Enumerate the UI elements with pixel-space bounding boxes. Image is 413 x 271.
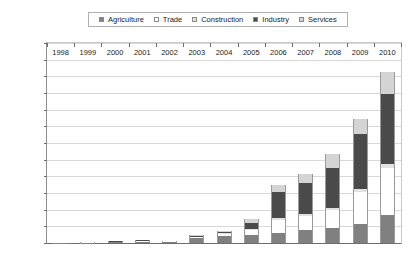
y-tick-mark [44, 60, 47, 61]
bar-column[interactable] [189, 235, 204, 243]
x-axis-tick-label: 2001 [129, 49, 156, 57]
bar-segment-agriculture [298, 230, 313, 243]
legend-item-construction[interactable]: Construction [192, 16, 243, 24]
y-gridline [47, 176, 401, 177]
x-tick-mark [319, 43, 320, 47]
bar-segment-trade [353, 192, 368, 224]
y-gridline [47, 60, 401, 61]
bar-segment-industry [271, 192, 286, 218]
bar-segment-agriculture [353, 224, 368, 243]
bar-segment-agriculture [325, 228, 340, 243]
y-tick-mark [44, 210, 47, 211]
x-tick-mark [265, 43, 266, 47]
x-axis-tick-label: 2010 [374, 49, 401, 57]
x-tick-mark [74, 43, 75, 47]
legend-swatch-icon [192, 17, 197, 22]
x-axis-tick-label: 1998 [47, 49, 74, 57]
bar-column[interactable] [217, 231, 232, 243]
y-tick-mark [44, 126, 47, 127]
bar-column[interactable] [380, 72, 395, 243]
y-gridline [47, 76, 401, 77]
legend-label: Construction [201, 16, 243, 24]
y-tick-mark [44, 110, 47, 111]
y-tick-mark [44, 93, 47, 94]
legend-swatch-icon [299, 17, 304, 22]
stacked-column-chart: AgricultureTradeConstructionIndustryServ… [0, 0, 413, 271]
legend-label: Trade [163, 16, 182, 24]
legend-swatch-icon [154, 17, 159, 22]
legend-item-services[interactable]: Services [299, 16, 337, 24]
bar-segment-agriculture [162, 242, 177, 243]
legend-label: Services [308, 16, 337, 24]
x-axis-tick-label: 2007 [292, 49, 319, 57]
y-gridline [47, 110, 401, 111]
bar-column[interactable] [298, 174, 313, 243]
x-tick-mark [292, 43, 293, 47]
bar-segment-industry [353, 134, 368, 190]
x-axis-tick-label: 2002 [156, 49, 183, 57]
bar-segment-agriculture [244, 235, 259, 243]
y-tick-mark [44, 76, 47, 77]
x-tick-mark [401, 43, 402, 47]
y-tick-mark [44, 226, 47, 227]
x-tick-mark [183, 43, 184, 47]
y-tick-mark [44, 243, 47, 244]
x-axis-tick-label: 2000 [101, 49, 128, 57]
x-axis-tick-label: 2008 [319, 49, 346, 57]
x-axis-tick-label: 2009 [347, 49, 374, 57]
legend-swatch-icon [99, 17, 104, 22]
legend-item-industry[interactable]: Industry [253, 16, 289, 24]
legend-label: Agriculture [108, 16, 144, 24]
bar-column[interactable] [108, 241, 123, 243]
bar-segment-services [271, 185, 286, 192]
bar-segment-industry [298, 183, 313, 214]
bar-column[interactable] [325, 154, 340, 243]
y-gridline [47, 210, 401, 211]
bar-column[interactable] [271, 185, 286, 243]
y-tick-mark [44, 176, 47, 177]
bar-segment-agriculture [271, 233, 286, 243]
x-axis-tick-label: 1999 [74, 49, 101, 57]
bar-segment-agriculture [380, 215, 395, 243]
y-tick-mark [44, 193, 47, 194]
bar-segment-agriculture [217, 236, 232, 243]
bar-segment-industry [325, 168, 340, 207]
x-tick-mark [347, 43, 348, 47]
y-gridline [47, 93, 401, 94]
legend-item-trade[interactable]: Trade [154, 16, 182, 24]
plot-area: 60,00055,00050,00045,00040,00035,00030,0… [46, 42, 402, 244]
legend-swatch-icon [253, 17, 258, 22]
y-gridline [47, 193, 401, 194]
bar-segment-services [298, 174, 313, 184]
y-gridline [47, 226, 401, 227]
y-gridline [47, 160, 401, 161]
x-axis-tick-label: 2003 [183, 49, 210, 57]
x-axis-tick-label: 2004 [210, 49, 237, 57]
y-gridline [47, 143, 401, 144]
bar-segment-services [325, 154, 340, 169]
x-tick-mark [238, 43, 239, 47]
y-gridline [47, 126, 401, 127]
x-tick-mark [101, 43, 102, 47]
bar-column[interactable] [244, 219, 259, 243]
legend-label: Industry [262, 16, 289, 24]
bar-column[interactable] [135, 240, 150, 243]
x-tick-mark [156, 43, 157, 47]
y-tick-mark [44, 160, 47, 161]
bar-segment-agriculture [108, 242, 123, 243]
bar-segment-trade [298, 216, 313, 230]
bar-segment-agriculture [135, 242, 150, 243]
x-tick-mark [129, 43, 130, 47]
legend-item-agriculture[interactable]: Agriculture [99, 16, 144, 24]
x-axis-tick-label: 2005 [238, 49, 265, 57]
y-tick-mark [44, 143, 47, 144]
bar-segment-trade [271, 220, 286, 233]
bar-column[interactable] [353, 119, 368, 243]
bar-column[interactable] [162, 241, 177, 243]
bar-segment-services [380, 72, 395, 94]
x-tick-mark [47, 43, 48, 47]
x-axis-tick-label: 2006 [265, 49, 292, 57]
bar-column[interactable] [80, 242, 95, 243]
bar-segment-trade [380, 168, 395, 215]
x-tick-mark [210, 43, 211, 47]
